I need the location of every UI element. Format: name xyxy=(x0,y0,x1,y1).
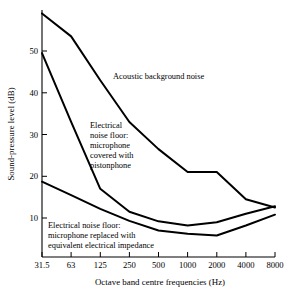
y-axis-ticks xyxy=(42,51,47,218)
x-axis-ticks xyxy=(42,252,275,257)
chart-plot-area: 50 40 30 20 10 31.5 63 125 250 500 1000 xyxy=(0,0,295,295)
x-axis-tick-labels: 31.5 63 125 250 500 1000 2000 4000 8000 xyxy=(34,260,283,270)
x-tick-label-1000: 1000 xyxy=(179,260,196,270)
x-tick-label-500: 500 xyxy=(152,260,165,270)
y-tick-label-50: 50 xyxy=(29,46,38,56)
x-tick-label-63: 63 xyxy=(67,260,76,270)
y-tick-label-30: 30 xyxy=(29,130,38,140)
chart-annotations: Acoustic background noise Electrical noi… xyxy=(48,72,204,250)
x-axis-title: Octave band centre frequencies (Hz) xyxy=(95,277,225,287)
y-axis-title: Sound-pressure level (dB) xyxy=(6,87,16,180)
y-axis-tick-labels: 50 40 30 20 10 xyxy=(29,46,38,223)
x-tick-label-250: 250 xyxy=(123,260,136,270)
y-tick-label-40: 40 xyxy=(29,88,38,98)
x-tick-label-125: 125 xyxy=(94,260,107,270)
annotation-acoustic-background-noise: Acoustic background noise xyxy=(113,72,204,81)
annotation-electrical-noise-floor-pistonphone: Electrical noise floor: microphone cover… xyxy=(90,121,136,170)
annotation-electrical-noise-floor-impedance: Electrical noise floor: microphone repla… xyxy=(48,221,154,250)
series-line-acoustic-background-noise xyxy=(42,13,275,207)
x-tick-label-4000: 4000 xyxy=(237,260,254,270)
y-tick-label-20: 20 xyxy=(29,171,38,181)
data-series-group xyxy=(42,13,275,235)
x-tick-label-8000: 8000 xyxy=(266,260,283,270)
x-tick-label-2000: 2000 xyxy=(208,260,225,270)
chart-figure: 50 40 30 20 10 31.5 63 125 250 500 1000 xyxy=(0,0,295,295)
x-tick-label-31.5: 31.5 xyxy=(34,260,49,270)
y-tick-label-10: 10 xyxy=(29,213,38,223)
